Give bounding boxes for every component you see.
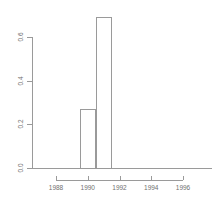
- x-axis-tick-label: 1996: [176, 184, 190, 191]
- y-axis-tick: [27, 81, 32, 82]
- x-axis-tick: [151, 176, 152, 180]
- y-axis-tick-label: 0.0: [14, 162, 26, 174]
- x-axis-tick: [183, 176, 184, 180]
- histogram-bar: [80, 109, 96, 168]
- y-axis-tick-label: 0.2: [14, 118, 26, 130]
- x-axis-tick-label: 1994: [144, 184, 158, 191]
- x-axis-tick-label: 1988: [49, 184, 63, 191]
- y-axis-tick-label-text: 0.4: [17, 76, 24, 85]
- x-axis-tick: [56, 176, 57, 180]
- x-axis-tick-label: 1990: [81, 184, 95, 191]
- y-axis-tick-label-text: 0.0: [17, 163, 24, 172]
- x-axis-line: [56, 180, 183, 181]
- x-axis-tick: [88, 176, 89, 180]
- y-axis-tick: [27, 37, 32, 38]
- x-axis-tick: [120, 176, 121, 180]
- y-axis-tick-label: 0.6: [14, 31, 26, 43]
- histogram-bar: [96, 17, 112, 168]
- y-axis-tick-label-text: 0.6: [17, 32, 24, 41]
- plot-baseline: [32, 168, 212, 169]
- y-axis-tick-label: 0.4: [14, 75, 26, 87]
- x-axis-tick-label: 1992: [112, 184, 126, 191]
- y-axis-line: [32, 37, 33, 169]
- y-axis-tick: [27, 124, 32, 125]
- histogram-plot: 0.00.20.40.6 19881990199219941996: [0, 0, 217, 197]
- y-axis-tick-label-text: 0.2: [17, 120, 24, 129]
